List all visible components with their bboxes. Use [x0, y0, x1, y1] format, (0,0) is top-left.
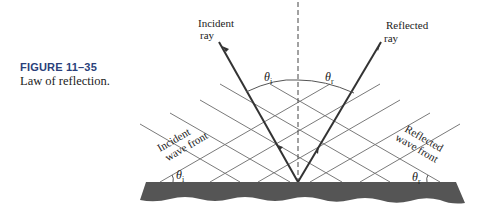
theta-r-bottom-label: θr	[412, 170, 421, 186]
reflection-diagram: Incident ray Reflected ray Incident wave…	[0, 0, 477, 214]
theta-i-bottom-arc	[172, 175, 173, 182]
incident-wave-front-label: Incident wave front	[155, 119, 210, 164]
incident-ray-label-2: ray	[200, 29, 215, 41]
theta-i-bottom-label: θi	[176, 168, 185, 184]
reflected-ray	[298, 42, 381, 182]
theta-r-top-label: θr	[325, 70, 334, 86]
incident-ray-label-1: Incident	[198, 17, 234, 29]
reflected-ray-label-2: ray	[384, 32, 399, 44]
theta-r-bottom-arc	[427, 175, 428, 182]
incident-ray	[219, 42, 298, 182]
reflected-ray-label-1: Reflected	[386, 19, 429, 31]
theta-i-top-label: θi	[264, 70, 273, 86]
reflecting-surface	[140, 182, 465, 204]
